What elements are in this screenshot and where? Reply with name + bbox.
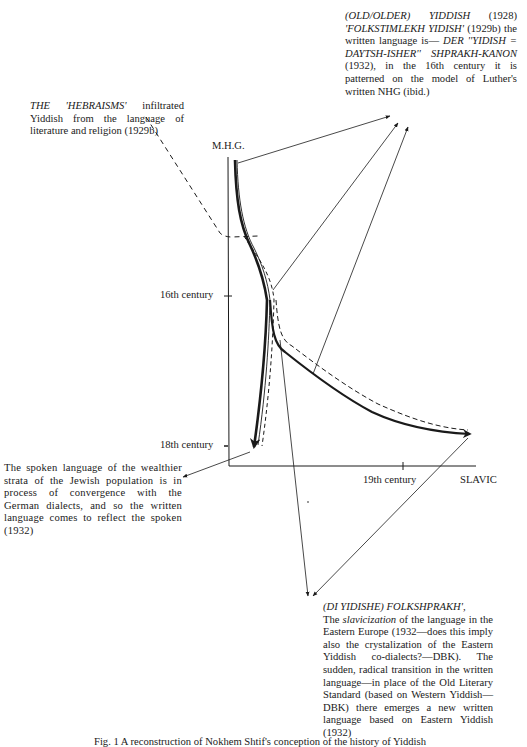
eastern-branch-dashed <box>276 300 468 430</box>
note-old-yiddish-year: (1928) <box>470 10 517 21</box>
note-old-yiddish-term: (OLD/OLDER) YIDDISH <box>345 10 470 21</box>
stray-dot <box>307 501 309 503</box>
x-tick-label-19th-century: 19th century <box>363 474 416 485</box>
note-old-yiddish: (OLD/OLDER) YIDDISH (1928) 'FOLKSTIMLEKH… <box>345 10 517 98</box>
western-branch-solid <box>235 160 267 447</box>
pointer-16c-to-old-yiddish <box>273 123 398 290</box>
axes <box>224 157 476 470</box>
pointer-18c-to-spoken-note <box>183 452 250 477</box>
pointer-mhg-to-old-yiddish <box>238 116 390 163</box>
western-branch-thin <box>237 160 270 445</box>
eastern-branch-solid <box>270 300 470 434</box>
note-hebraisms-term: THE 'HEBRAISMS' <box>30 100 127 111</box>
note-folkstimlekh-term: 'FOLKSTIMLEKH YIDISH' <box>345 23 464 34</box>
y-axis-top-label: M.H.G. <box>212 140 245 151</box>
note-folkshprakh: (DI YIDISHE) FOLKSHPRAKH', The slaviciza… <box>323 601 493 740</box>
y-axis <box>228 157 229 466</box>
note-folkshprakh-title: (DI YIDISHE) FOLKSHPRAKH', <box>323 601 493 614</box>
note-folkshprakh-text-pre: The <box>323 614 343 625</box>
y-tick-label-18th-century: 18th century <box>160 439 213 450</box>
note-old-yiddish-text-2: (1932), in the 16th century it is patter… <box>345 60 517 96</box>
pointer-east-to-old-yiddish <box>313 127 408 374</box>
x-axis-end-label: SLAVIC <box>460 474 497 485</box>
figure-caption: Fig. 1 A reconstruction of Nokhem Shtif'… <box>94 736 426 747</box>
y-tick-label-16th-century: 16th century <box>160 289 213 300</box>
pointer-slavic-to-folkshprakh <box>313 438 468 596</box>
pointer-branch-to-folkshprakh <box>280 340 308 596</box>
note-hebraisms: THE 'HEBRAISMS' infiltrated Yiddish from… <box>30 100 184 138</box>
note-slavicization-term: slavicization <box>343 614 397 625</box>
note-folkshprakh-text: of the language in the Eastern Europe (1… <box>323 614 493 738</box>
note-spoken-language: The spoken language of the wealthier str… <box>4 462 182 538</box>
